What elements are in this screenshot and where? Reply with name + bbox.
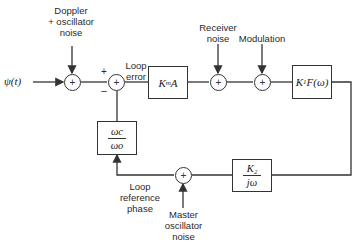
minus-sign: − bbox=[100, 86, 108, 97]
summing-junction-master: + bbox=[175, 167, 192, 184]
doppler-noise-label: Doppler + oscillator noise bbox=[40, 5, 102, 38]
master-oscillator-noise-label: Master oscillator noise bbox=[156, 209, 211, 242]
summing-junction-doppler: + bbox=[64, 74, 81, 91]
summing-junction-receiver: + bbox=[210, 74, 227, 91]
integrator-block-k2-jw: K₂jω bbox=[232, 159, 272, 192]
block-diagram: ψ(t) Doppler + oscillator noise Receiver… bbox=[0, 0, 363, 250]
summing-junction-comparator: + bbox=[108, 74, 125, 91]
loop-reference-phase-label: Loop reference phase bbox=[117, 181, 163, 214]
loop-filter-block-k1-f: K1 F(ω) bbox=[292, 65, 332, 99]
modulation-label: Modulation bbox=[232, 33, 292, 44]
plus-sign: + bbox=[100, 66, 108, 77]
loop-error-label: Loop error bbox=[122, 60, 150, 82]
gain-block-km-a: Km A bbox=[148, 66, 188, 99]
frequency-ratio-block: ωcωo bbox=[97, 121, 137, 155]
summing-junction-modulation: + bbox=[254, 74, 271, 91]
input-signal-label: ψ(t) bbox=[4, 75, 21, 87]
